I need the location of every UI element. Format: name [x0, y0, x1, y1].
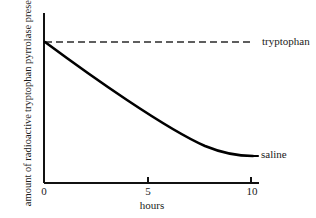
- x-tick-label-5: 5: [142, 186, 154, 197]
- x-axis-title: hours: [112, 200, 192, 211]
- series-label-saline: saline: [261, 149, 287, 160]
- series-label-tryptophan: tryptophan: [262, 36, 310, 47]
- chart-figure: amount of radioactive tryptophan pyrrola…: [0, 0, 316, 218]
- x-tick-label-10: 10: [243, 186, 261, 197]
- x-tick-label-0: 0: [38, 186, 50, 197]
- series-line-saline: [45, 42, 253, 156]
